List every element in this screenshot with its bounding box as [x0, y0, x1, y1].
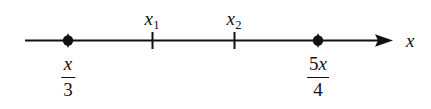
tick-label-x2: x2 [226, 9, 241, 31]
point-label-x-over-3: x 3 [61, 54, 75, 101]
fraction-denominator-right: 4 [307, 79, 329, 101]
point-label-5x-over-4: 5x 4 [307, 54, 329, 101]
fraction-denominator-left: 3 [61, 79, 75, 101]
fraction-bar-left [61, 77, 75, 79]
tick-label-x2-subscript: 2 [235, 18, 241, 32]
tick-label-x1: x1 [144, 9, 159, 31]
tick-label-x1-base: x [144, 8, 152, 29]
fraction-bar-right [307, 77, 329, 79]
point-marker-5x-over-4 [313, 33, 323, 48]
point-marker-x-over-3 [63, 33, 73, 48]
axis-variable-label: x [406, 31, 414, 50]
fraction-numerator-right-coefficient: 5 [309, 53, 319, 74]
fraction-numerator-right: 5x [307, 54, 329, 76]
tick-label-x1-subscript: 1 [153, 18, 159, 32]
tick-label-x2-base: x [226, 8, 234, 29]
number-line-figure: x1 x2 x x 3 5x 4 [0, 0, 431, 109]
fraction-numerator-left: x [61, 54, 75, 76]
fraction-numerator-right-variable: x [319, 53, 327, 74]
